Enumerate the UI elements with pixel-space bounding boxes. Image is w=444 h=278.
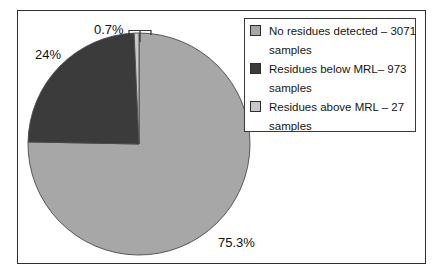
legend-label-line: Residues below MRL– 973 xyxy=(269,60,406,79)
legend-label-below-mrl: Residues below MRL– 973 samples xyxy=(269,60,406,98)
legend-swatch-no-residues-icon xyxy=(250,25,261,36)
legend-label-line: samples xyxy=(269,79,406,98)
chart-plot-area: 0.7% 24% 75.3% No residues detected – 30… xyxy=(17,10,426,264)
legend-item: No residues detected – 3071 samples xyxy=(250,22,415,60)
legend-item: Residues above MRL – 27 samples xyxy=(250,98,415,136)
legend-swatch-below-mrl-icon xyxy=(250,63,261,74)
datalabel-no-residues-detected: 75.3% xyxy=(218,236,255,250)
pie-wedges xyxy=(28,33,250,255)
legend-label-line: Residues above MRL – 27 xyxy=(269,98,404,117)
legend-item: Residues below MRL– 973 samples xyxy=(250,60,415,98)
datalabel-residues-above-mrl: 0.7% xyxy=(94,23,124,37)
legend-label-line: No residues detected – 3071 xyxy=(269,22,416,41)
legend-label-line: samples xyxy=(269,117,404,136)
legend-label-above-mrl: Residues above MRL – 27 samples xyxy=(269,98,404,136)
legend-swatch-above-mrl-icon xyxy=(250,101,261,112)
figure-canvas: { "chart_data": { "type": "pie", "start_… xyxy=(0,0,444,278)
legend: No residues detected – 3071 samples Resi… xyxy=(244,18,416,132)
datalabel-residues-below-mrl: 24% xyxy=(35,48,61,62)
legend-label-no-residues: No residues detected – 3071 samples xyxy=(269,22,416,60)
legend-label-line: samples xyxy=(269,41,416,60)
